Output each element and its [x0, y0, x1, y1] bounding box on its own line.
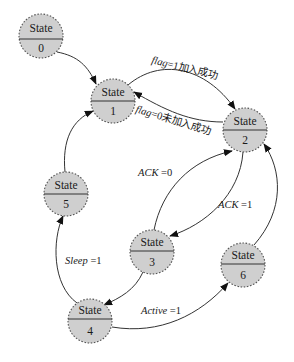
state-title: State	[55, 179, 78, 191]
edge-label-2-to-3: ACK =1	[217, 199, 252, 210]
state-title: State	[234, 115, 257, 127]
edge-label-4-to-5: Sleep =1	[65, 255, 102, 266]
state-diagram: flag=1加入成功 flag=0未加入成功 ACK =0 ACK =1 Sle…	[0, 0, 294, 362]
state-title: State	[30, 22, 53, 34]
state-index: 2	[242, 134, 248, 146]
edge-6-to-2	[254, 144, 277, 245]
nodes: State 0 State 1 State 2 State 3 State 4	[19, 14, 267, 343]
state-index: 0	[38, 42, 44, 54]
state-index: 5	[63, 198, 69, 210]
state-node-0: State 0	[19, 14, 63, 58]
state-node-5: State 5	[44, 172, 88, 216]
edge-3-to-4	[104, 272, 143, 305]
state-node-3: State 3	[130, 230, 174, 274]
edge-1-to-2	[128, 69, 235, 109]
state-node-6: State 6	[221, 243, 265, 287]
state-node-4: State 4	[68, 299, 112, 343]
state-index: 6	[240, 269, 246, 281]
edge-label-4-to-6: Active =1	[140, 305, 181, 316]
state-index: 1	[110, 105, 116, 117]
state-node-1: State 1	[91, 79, 135, 123]
edge-2-to-3	[170, 152, 243, 236]
state-node-2: State 2	[223, 108, 267, 152]
state-title: State	[79, 304, 102, 316]
edge-label-1-to-2: flag=1加入成功	[151, 54, 219, 81]
edge-0-to-1	[57, 52, 96, 84]
edge-label-3-to-2: ACK =0	[137, 167, 172, 178]
state-title: State	[141, 236, 164, 248]
state-index: 4	[87, 325, 93, 337]
edge-5-to-1	[64, 111, 93, 172]
state-title: State	[232, 249, 255, 261]
edge-3-to-2	[154, 151, 232, 230]
state-title: State	[102, 86, 125, 98]
state-index: 3	[149, 256, 155, 268]
